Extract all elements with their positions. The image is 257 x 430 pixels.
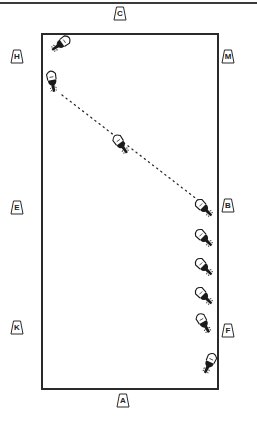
- marker-label: B: [221, 201, 235, 211]
- marker-label: M: [221, 52, 235, 62]
- marker-b: B: [221, 198, 235, 213]
- horse-rider-icon: [193, 197, 214, 218]
- marker-c: C: [113, 6, 127, 21]
- horse-rider-icon: [193, 285, 214, 306]
- marker-m: M: [221, 49, 235, 64]
- marker-label: F: [221, 326, 235, 336]
- marker-f: F: [221, 323, 235, 338]
- movement-overlay: [0, 0, 257, 430]
- dotted-path: [62, 95, 198, 200]
- horse-rider-icon: [50, 34, 72, 53]
- marker-h: H: [10, 49, 24, 64]
- marker-label: E: [10, 203, 24, 213]
- marker-a: A: [116, 393, 130, 408]
- marker-label: C: [113, 9, 127, 19]
- horse-rider-icon: [111, 133, 130, 155]
- marker-label: H: [10, 52, 24, 62]
- marker-label: A: [116, 396, 130, 406]
- marker-label: K: [10, 323, 24, 333]
- horse-rider-icon: [193, 227, 214, 248]
- marker-e: E: [10, 200, 24, 215]
- horse-rider-icon: [46, 70, 59, 92]
- marker-k: K: [10, 320, 24, 335]
- horse-rider-icon: [193, 256, 214, 277]
- horse-rider-icon: [195, 312, 213, 335]
- horse-rider-icon: [201, 352, 218, 375]
- horse-figures: [46, 34, 218, 375]
